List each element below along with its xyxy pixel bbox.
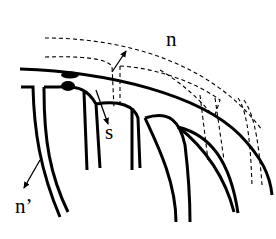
- dashed-contours: [45, 38, 262, 185]
- label-s: s: [105, 122, 113, 143]
- arrow-n-prime: [24, 160, 40, 188]
- outer-blob: [61, 72, 79, 79]
- arrow-n: [112, 51, 126, 72]
- label-n: n: [166, 29, 177, 50]
- diagram-canvas: [0, 0, 276, 239]
- label-n-prime: n’: [15, 196, 33, 217]
- inner-blob: [61, 81, 75, 91]
